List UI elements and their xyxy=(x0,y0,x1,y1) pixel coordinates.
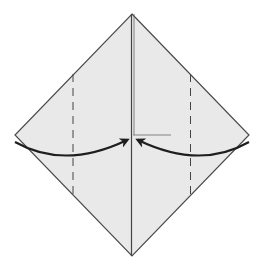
origami-diagram xyxy=(0,0,262,270)
diagram-canvas xyxy=(0,0,262,270)
